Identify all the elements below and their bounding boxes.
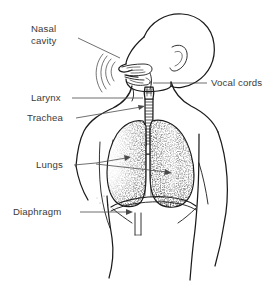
- label-trachea: Trachea: [27, 112, 63, 123]
- airflow-arcs: [96, 54, 115, 92]
- ear: [170, 45, 187, 71]
- respiratory-system-diagram: Nasal cavity Vocal cords Larynx Trachea …: [0, 0, 277, 287]
- mouth-and-tongue: [125, 77, 151, 85]
- label-diaphragm: Diaphragm: [13, 206, 61, 217]
- leader-lungs-trunk: [74, 163, 96, 165]
- leader-nasal-cavity: [78, 38, 120, 58]
- label-lungs: Lungs: [36, 159, 63, 170]
- diagram-canvas: Nasal cavity Vocal cords Larynx Trachea …: [0, 0, 277, 287]
- label-nasal-cavity-line1: Nasal: [31, 23, 56, 34]
- larynx: [144, 87, 154, 99]
- head-profile: [119, 14, 215, 101]
- label-nasal-cavity-line2: cavity: [31, 35, 56, 46]
- label-larynx: Larynx: [31, 92, 61, 103]
- leader-trachea: [76, 107, 141, 118]
- label-vocal-cords: Vocal cords: [211, 77, 262, 88]
